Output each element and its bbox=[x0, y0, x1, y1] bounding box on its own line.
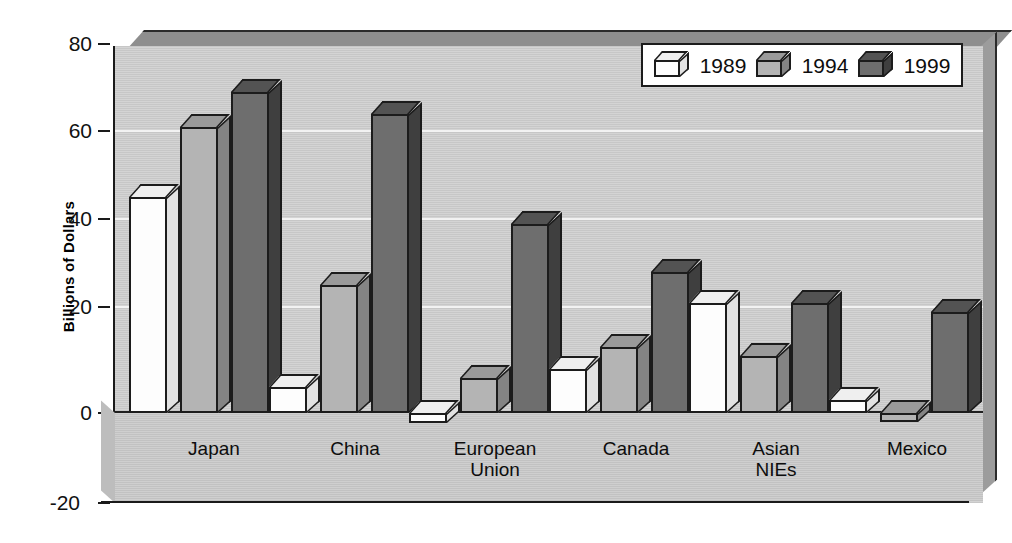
category-label-european-union: European Union bbox=[420, 438, 570, 481]
category-label-asian-nies: Asian NIEs bbox=[701, 438, 851, 481]
category-label-canada: Canada bbox=[561, 438, 711, 459]
bar-front-face bbox=[511, 224, 549, 413]
bar-front-face bbox=[320, 285, 358, 413]
bar-front-face bbox=[651, 272, 689, 413]
bar-side-face bbox=[727, 291, 740, 413]
bar-china-1989 bbox=[269, 387, 307, 413]
y-tick-label-60: 60 bbox=[34, 120, 92, 141]
bar-japan-1999 bbox=[231, 92, 269, 413]
y-tick-label-40: 40 bbox=[34, 208, 92, 229]
legend-label-1994: 1994 bbox=[802, 55, 849, 76]
bar-front-face bbox=[371, 114, 409, 413]
bar-side-face bbox=[358, 273, 371, 413]
bar-front-face bbox=[931, 312, 969, 413]
bar-china-1999 bbox=[371, 114, 409, 413]
bar-front-face bbox=[600, 347, 638, 413]
bar-european-union-1994 bbox=[460, 378, 498, 413]
bar-front-face bbox=[180, 127, 218, 413]
y-tick-label-80: 80 bbox=[34, 33, 92, 54]
plot-left-wall bbox=[101, 400, 115, 503]
bar-front-face bbox=[829, 400, 867, 413]
y-axis-title: Billions of Dollars bbox=[60, 137, 77, 397]
bar-mexico-1994 bbox=[880, 413, 918, 422]
bar-mexico-1999 bbox=[931, 312, 969, 413]
bar-japan-1989 bbox=[129, 197, 167, 413]
bar-asian-nies-1989 bbox=[689, 303, 727, 413]
bar-side-face bbox=[969, 300, 982, 413]
bar-front-face bbox=[269, 387, 307, 413]
bar-front-face bbox=[231, 92, 269, 413]
bar-china-1994 bbox=[320, 285, 358, 413]
legend-entry-1999: 1999 bbox=[858, 54, 951, 77]
legend-label-1989: 1989 bbox=[700, 55, 747, 76]
legend-swatch-1994-icon bbox=[756, 60, 782, 77]
bar-side-face bbox=[218, 115, 231, 413]
legend: 1989 1994 1999 bbox=[641, 43, 963, 87]
bars-layer bbox=[115, 46, 983, 503]
swatch-front-face bbox=[756, 60, 782, 77]
y-tick-mark-40 bbox=[98, 218, 110, 220]
bar-front-face bbox=[409, 413, 447, 423]
bar-front-face bbox=[460, 378, 498, 413]
bar-side-face bbox=[269, 80, 282, 413]
y-tick-label-0: 0 bbox=[34, 402, 92, 423]
bar-mexico-1989 bbox=[829, 400, 867, 413]
bar-canada-1989 bbox=[549, 369, 587, 413]
bar-canada-1994 bbox=[600, 347, 638, 413]
bar-front-face bbox=[549, 369, 587, 413]
y-tick-mark-20 bbox=[98, 306, 110, 308]
bar-front-face bbox=[791, 303, 829, 413]
bar-japan-1994 bbox=[180, 127, 218, 413]
bar-side-face bbox=[409, 102, 422, 413]
swatch-front-face bbox=[654, 60, 680, 77]
plot-area: Japan China European Union Canada Asian … bbox=[113, 46, 983, 503]
bar-european-union-1999 bbox=[511, 224, 549, 413]
category-label-china: China bbox=[280, 438, 430, 459]
legend-swatch-1989-icon bbox=[654, 60, 680, 77]
plot-box-right-face bbox=[981, 32, 997, 494]
bar-side-face bbox=[167, 185, 180, 413]
legend-entry-1994: 1994 bbox=[756, 54, 849, 77]
legend-label-1999: 1999 bbox=[904, 55, 951, 76]
y-tick-label-20: 20 bbox=[34, 296, 92, 317]
bar-front-face bbox=[689, 303, 727, 413]
y-tick-label-neg20: -20 bbox=[22, 492, 80, 513]
bar-european-union-1989 bbox=[409, 413, 447, 423]
bar-front-face bbox=[740, 356, 778, 413]
bar-canada-1999 bbox=[651, 272, 689, 413]
bar-front-face bbox=[129, 197, 167, 413]
y-tick-mark-60 bbox=[98, 130, 110, 132]
bar-side-face bbox=[587, 357, 600, 413]
bar-side-face bbox=[638, 335, 651, 413]
bar-asian-nies-1999 bbox=[791, 303, 829, 413]
bar-side-face bbox=[778, 344, 791, 413]
swatch-front-face bbox=[858, 60, 884, 77]
legend-entry-1989: 1989 bbox=[654, 54, 747, 77]
bar-front-face bbox=[880, 413, 918, 422]
bar-asian-nies-1994 bbox=[740, 356, 778, 413]
category-label-japan: Japan bbox=[139, 438, 289, 459]
category-label-mexico: Mexico bbox=[842, 438, 992, 459]
y-tick-mark-80 bbox=[98, 43, 110, 45]
legend-swatch-1999-icon bbox=[858, 60, 884, 77]
